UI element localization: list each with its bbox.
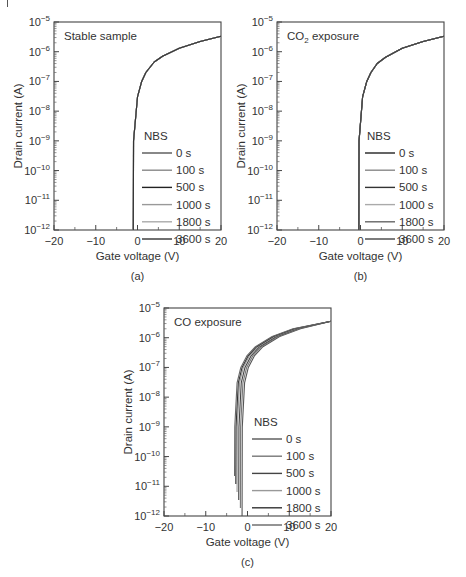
- legend-title: NBS: [254, 416, 278, 428]
- panel-title: CO exposure: [174, 316, 242, 328]
- legend-item-label: 1000 s: [286, 485, 321, 497]
- y-tick-label: 10−10: [134, 449, 160, 463]
- legend-item-label: 3600 s: [286, 519, 321, 531]
- series-curve-1000s: [237, 321, 331, 492]
- y-tick-label: 10−12: [134, 508, 160, 522]
- x-tick-label: 0: [244, 521, 250, 533]
- legend-item-label: 500 s: [286, 467, 314, 479]
- y-tick-label: 10−6: [139, 330, 161, 344]
- x-tick-label: 20: [325, 521, 337, 533]
- chart-svg: 10−1210−1110−1010−910−810−710−610−5−20−1…: [0, 0, 466, 577]
- x-tick-label: −10: [196, 521, 215, 533]
- x-axis-label: Gate voltage (V): [206, 536, 290, 548]
- legend-item-label: 1800 s: [286, 502, 321, 514]
- series-curve-1800s: [236, 321, 331, 484]
- y-tick-label: 10−8: [139, 389, 161, 403]
- chart-panel-c: 10−1210−1110−1010−910−810−710−610−5−20−1…: [0, 0, 466, 577]
- x-tick-label: −20: [155, 521, 174, 533]
- y-tick-label: 10−9: [139, 419, 161, 433]
- y-tick-label: 10−11: [135, 478, 161, 492]
- legend-item-label: 0 s: [286, 433, 302, 445]
- legend-item-label: 100 s: [286, 450, 314, 462]
- y-tick-label: 10−7: [139, 359, 161, 373]
- y-tick-label: 10−5: [139, 300, 161, 314]
- series-curve-3600s: [235, 321, 331, 476]
- panel-caption: (c): [241, 556, 254, 568]
- y-axis-label: Drain current (A): [122, 369, 134, 454]
